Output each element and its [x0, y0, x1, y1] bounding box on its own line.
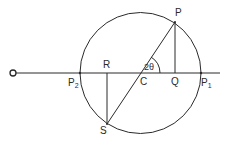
label-r: R: [103, 59, 110, 70]
point-p-dot: [174, 21, 176, 23]
label-p2: P2: [68, 77, 79, 89]
diagram-canvas: P R 2θ C Q S P2 P1: [0, 0, 229, 141]
label-p: P: [175, 7, 182, 18]
label-c: C: [140, 76, 147, 87]
point-p1-dot: [200, 72, 202, 74]
label-p2-sub: 2: [75, 82, 79, 89]
label-q: Q: [171, 76, 179, 87]
label-p1-sub: 1: [208, 82, 212, 89]
label-p1: P1: [201, 77, 212, 89]
point-p2-dot: [79, 72, 81, 74]
label-angle: 2θ: [144, 62, 154, 72]
point-o-marker: [10, 70, 16, 76]
label-s: S: [100, 125, 107, 136]
